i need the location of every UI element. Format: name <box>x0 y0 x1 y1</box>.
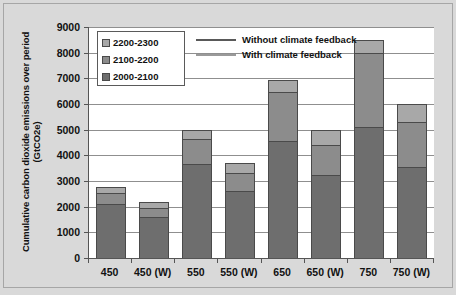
y-axis-tick-labels: 0100020003000400050006000700080009000 <box>0 0 86 295</box>
y-tick-label: 5000 <box>57 124 80 136</box>
x-tick-label: 550 <box>187 266 205 278</box>
bar-segment[interactable] <box>96 193 126 205</box>
bar-segment[interactable] <box>354 53 384 127</box>
y-tick-label: 3000 <box>57 175 80 187</box>
bar-stack[interactable] <box>268 80 298 258</box>
x-tick-label: 450 (W) <box>134 266 171 278</box>
bar-segment[interactable] <box>139 208 169 217</box>
bar-segment[interactable] <box>225 191 255 258</box>
bar-stack[interactable] <box>182 130 212 258</box>
bar-segment[interactable] <box>182 164 212 258</box>
legend-item-2200-2300: 2200-2300 <box>102 37 158 48</box>
bar-segment[interactable] <box>182 139 212 165</box>
bar-stack[interactable] <box>139 202 169 258</box>
y-tick-label: 4000 <box>57 149 80 161</box>
legend-label-2000-2100: 2000-2100 <box>113 71 158 82</box>
bar-stack[interactable] <box>397 104 427 258</box>
legend-item-2100-2200: 2100-2200 <box>102 54 158 65</box>
bar-segment[interactable] <box>397 122 427 167</box>
chart-figure: Cumulative carbon dioxide emissions over… <box>0 0 456 295</box>
legend-label-with-climate-feedback: With climate feedback <box>242 49 342 60</box>
bar-segment[interactable] <box>311 145 341 175</box>
legend-line-icon-without-feedback <box>196 39 236 41</box>
bar-stack[interactable] <box>96 187 126 258</box>
x-tick-mark <box>304 258 305 263</box>
y-tick-label: 2000 <box>57 201 80 213</box>
legend-swatch-icon-2200-2300 <box>102 39 110 47</box>
bar-segment[interactable] <box>354 40 384 53</box>
x-tick-label: 650 (W) <box>307 266 344 278</box>
bar-segment[interactable] <box>225 163 255 173</box>
x-tick-mark <box>88 258 89 263</box>
x-tick-mark <box>217 258 218 263</box>
x-tick-mark <box>347 258 348 263</box>
x-tick-label: 750 (W) <box>393 266 430 278</box>
legend-item-with-climate-feedback: With climate feedback <box>196 49 342 60</box>
bar-segment[interactable] <box>268 141 298 258</box>
bar-segment[interactable] <box>397 167 427 258</box>
y-tick-label: 0 <box>74 252 80 264</box>
bar-segment[interactable] <box>311 175 341 258</box>
y-tick-label: 1000 <box>57 226 80 238</box>
bar-segment[interactable] <box>354 127 384 258</box>
bar-segment[interactable] <box>268 80 298 93</box>
legend-line-icon-with-feedback <box>196 54 236 56</box>
legend-item-2000-2100: 2000-2100 <box>102 71 158 82</box>
bar-segment[interactable] <box>397 104 427 122</box>
legend-label-without-climate-feedback: Without climate feedback <box>242 34 356 45</box>
bar-segment[interactable] <box>96 204 126 258</box>
x-tick-label: 450 <box>101 266 119 278</box>
bar-segment[interactable] <box>139 217 169 258</box>
bar-stack[interactable] <box>225 163 255 258</box>
x-tick-mark <box>390 258 391 263</box>
legend-swatch-icon-2000-2100 <box>102 73 110 81</box>
series-legend: 2200-2300 2100-2200 2000-2100 <box>97 31 185 86</box>
bar-segment[interactable] <box>225 173 255 191</box>
x-axis-tick-labels: 450450 (W)550550 (W)650650 (W)750750 (W) <box>88 258 433 294</box>
y-tick-label: 9000 <box>57 21 80 33</box>
bar-segment[interactable] <box>268 92 298 141</box>
x-tick-mark <box>174 258 175 263</box>
x-tick-mark <box>131 258 132 263</box>
x-tick-label: 650 <box>273 266 291 278</box>
x-tick-mark <box>433 258 434 263</box>
legend-label-2200-2300: 2200-2300 <box>113 37 158 48</box>
x-tick-label: 550 (W) <box>220 266 257 278</box>
y-tick-label: 6000 <box>57 98 80 110</box>
y-tick-label: 7000 <box>57 72 80 84</box>
legend-label-2100-2200: 2100-2200 <box>113 54 158 65</box>
legend-swatch-icon-2100-2200 <box>102 56 110 64</box>
x-tick-mark <box>261 258 262 263</box>
y-tick-label: 8000 <box>57 47 80 59</box>
x-tick-label: 750 <box>360 266 378 278</box>
bar-segment[interactable] <box>311 130 341 145</box>
bar-stack[interactable] <box>311 130 341 258</box>
bar-segment[interactable] <box>182 130 212 139</box>
legend-item-without-climate-feedback: Without climate feedback <box>196 34 356 45</box>
bar-stack[interactable] <box>354 40 384 258</box>
